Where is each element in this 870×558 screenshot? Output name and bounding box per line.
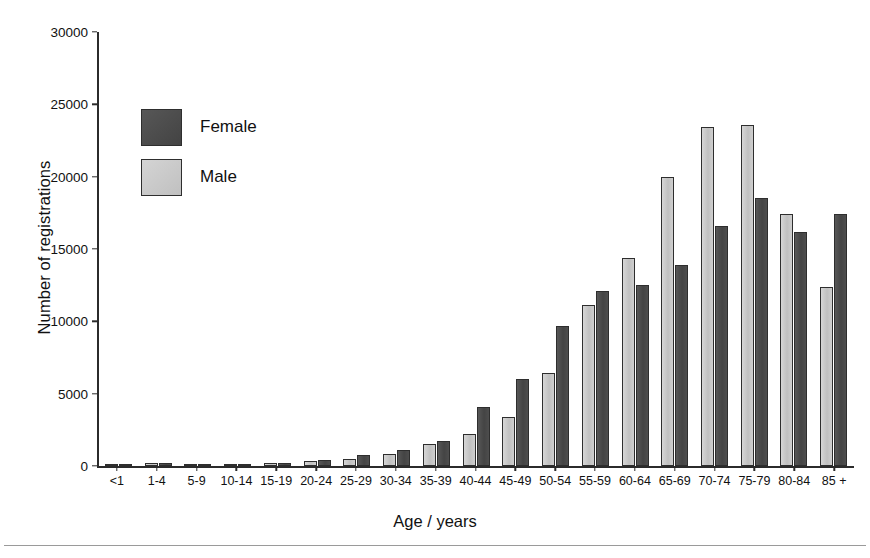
x-tick-mark	[754, 466, 755, 471]
x-tick-label: 60-64	[619, 474, 651, 488]
bar-group	[496, 32, 536, 466]
bar-female	[397, 450, 410, 466]
bar-male	[343, 459, 356, 466]
x-tick-mark	[156, 466, 157, 471]
x-tick-mark	[196, 466, 197, 471]
legend-item: Female	[141, 108, 351, 146]
bar-male	[463, 434, 476, 466]
x-tick-mark	[794, 466, 795, 471]
x-tick-label: 35-39	[420, 474, 452, 488]
bar-male	[820, 287, 833, 466]
x-tick-mark	[355, 466, 356, 471]
plot-area: 050001000015000200002500030000	[97, 32, 854, 466]
bar-group	[138, 32, 178, 466]
x-tick-mark	[276, 466, 277, 471]
y-tick-mark	[92, 393, 97, 394]
y-tick-mark	[92, 321, 97, 322]
x-tick-cell: 1-4	[137, 466, 177, 508]
bar-male	[661, 177, 674, 466]
y-tick-mark	[92, 31, 97, 32]
bar-male	[383, 454, 396, 466]
x-tick-cell: 40-44	[456, 466, 496, 508]
bar-groups	[99, 32, 854, 466]
bar-group	[774, 32, 814, 466]
x-tick-cell: 55-59	[575, 466, 615, 508]
bar-male	[502, 417, 515, 466]
bar-female	[675, 265, 688, 466]
x-tick-mark	[475, 466, 476, 471]
bar-male	[582, 305, 595, 466]
bar-female	[794, 232, 807, 466]
x-tick-mark	[555, 466, 556, 471]
x-tick-mark	[395, 466, 396, 471]
x-tick-label: 1-4	[148, 474, 166, 488]
legend-label: Male	[200, 167, 237, 187]
x-tick-mark	[315, 466, 316, 471]
bar-male	[542, 373, 555, 466]
x-tick-label: 20-24	[300, 474, 332, 488]
bar-group	[536, 32, 576, 466]
bar-female	[437, 441, 450, 466]
x-tick-cell: 45-49	[495, 466, 535, 508]
y-tick-label: 30000	[50, 25, 97, 40]
x-tick-cell: 15-19	[256, 466, 296, 508]
x-tick-cell: 5-9	[177, 466, 217, 508]
x-tick-cell: 65-69	[655, 466, 695, 508]
x-tick-label: 70-74	[699, 474, 731, 488]
bar-group	[814, 32, 854, 466]
legend-label: Female	[200, 117, 257, 137]
y-tick-label: 20000	[50, 169, 97, 184]
x-tick-cell: 75-79	[735, 466, 775, 508]
bar-female	[516, 379, 529, 466]
x-tick-mark	[833, 466, 834, 471]
bar-group	[178, 32, 218, 466]
x-tick-label: 30-34	[380, 474, 412, 488]
chart-figure: Number of registrations 0500010000150002…	[0, 0, 870, 558]
x-tick-mark	[435, 466, 436, 471]
y-tick-mark	[92, 104, 97, 105]
x-tick-label: 80-84	[778, 474, 810, 488]
x-tick-label: 55-59	[579, 474, 611, 488]
x-tick-cell: 25-29	[336, 466, 376, 508]
x-tick-cell: 20-24	[296, 466, 336, 508]
x-tick-label: 50-54	[539, 474, 571, 488]
bar-group	[615, 32, 655, 466]
x-axis-title: Age / years	[0, 512, 870, 531]
x-tick-mark	[594, 466, 595, 471]
x-tick-label: 40-44	[460, 474, 492, 488]
y-tick-mark	[92, 248, 97, 249]
x-tick-cell: 10-14	[217, 466, 257, 508]
x-tick-cell: 70-74	[695, 466, 735, 508]
x-tick-mark	[674, 466, 675, 471]
x-tick-label: 85 +	[822, 474, 847, 488]
footer-divider	[4, 545, 866, 546]
bar-male	[622, 258, 635, 466]
x-tick-mark	[116, 466, 117, 471]
chart-legend: FemaleMale	[141, 108, 351, 208]
y-tick-label: 15000	[50, 242, 97, 257]
bar-female	[834, 214, 847, 466]
x-tick-label: 25-29	[340, 474, 372, 488]
x-tick-mark	[236, 466, 237, 471]
bar-male	[780, 214, 793, 466]
bar-group	[655, 32, 695, 466]
bar-group	[218, 32, 258, 466]
y-tick-label: 25000	[50, 97, 97, 112]
x-tick-mark	[714, 466, 715, 471]
bar-group	[695, 32, 735, 466]
x-tick-label: 15-19	[260, 474, 292, 488]
y-tick-mark	[92, 176, 97, 177]
bar-male	[701, 127, 714, 466]
x-tick-label: 65-69	[659, 474, 691, 488]
x-tick-cell: 50-54	[535, 466, 575, 508]
bar-group	[377, 32, 417, 466]
x-tick-label: 5-9	[188, 474, 206, 488]
x-tick-cell: 35-39	[416, 466, 456, 508]
bar-group	[456, 32, 496, 466]
bar-group	[734, 32, 774, 466]
x-axis-ticks: <11-45-910-1415-1920-2425-2930-3435-3940…	[97, 466, 854, 508]
x-tick-label: <1	[110, 474, 124, 488]
x-tick-cell: 85 +	[814, 466, 854, 508]
y-tick-label: 10000	[50, 314, 97, 329]
legend-swatch-male	[141, 159, 182, 196]
